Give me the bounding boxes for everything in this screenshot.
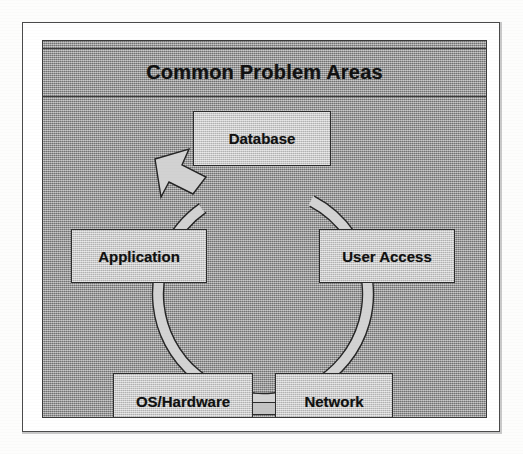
page-title: Common Problem Areas <box>146 61 383 84</box>
node-user-access[interactable]: User Access <box>319 229 455 283</box>
connector-os-network <box>251 402 277 415</box>
figure-root: Common Problem Areas <box>0 0 523 454</box>
node-user-access-label: User Access <box>342 248 432 265</box>
node-database-label: Database <box>229 130 296 147</box>
node-network[interactable]: Network <box>275 373 393 418</box>
node-application[interactable]: Application <box>71 229 207 283</box>
diagram-panel: Common Problem Areas <box>42 40 487 418</box>
node-database[interactable]: Database <box>193 111 331 166</box>
cycle-area: Database User Access Network OS/Hardware… <box>43 97 486 417</box>
node-application-label: Application <box>98 248 180 265</box>
node-network-label: Network <box>304 393 363 410</box>
node-os-hardware[interactable]: OS/Hardware <box>113 373 253 418</box>
header-band: Common Problem Areas <box>43 48 486 97</box>
node-os-hardware-label: OS/Hardware <box>136 393 230 410</box>
